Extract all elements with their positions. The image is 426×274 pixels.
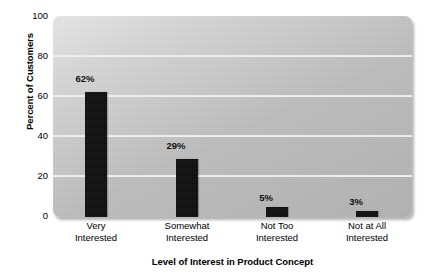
y-tick-label-80: 80 — [22, 51, 48, 61]
bar-chart-figure: Percent of Customers 100 80 60 40 20 0 6… — [0, 0, 426, 274]
category-label-line2: Interested — [137, 232, 237, 244]
category-label-line2: Interested — [317, 232, 417, 244]
y-tick-label-40: 40 — [22, 131, 48, 141]
x-axis-title: Level of Interest in Product Concept — [53, 256, 412, 267]
category-label-line2: Interested — [46, 232, 146, 244]
gridline-80 — [53, 55, 412, 57]
y-axis-tick-labels: 100 80 60 40 20 0 — [18, 0, 48, 274]
category-label-line1: Not Too — [261, 220, 294, 231]
bar-very-interested — [85, 92, 107, 217]
bar-value-very-interested: 62% — [62, 74, 108, 84]
y-tick-label-100: 100 — [22, 11, 48, 21]
bar-not-at-all-interested — [356, 211, 378, 217]
bar-value-somewhat-interested: 29% — [153, 141, 199, 151]
category-label-somewhat-interested: Somewhat Interested — [137, 220, 237, 243]
category-label-not-too-interested: Not Too Interested — [227, 220, 327, 243]
category-label-line1: Not at All — [348, 220, 386, 231]
y-tick-label-60: 60 — [22, 91, 48, 101]
bar-value-not-too-interested: 5% — [243, 193, 289, 203]
y-tick-label-20: 20 — [22, 171, 48, 181]
category-label-not-at-all-interested: Not at All Interested — [317, 220, 417, 243]
category-label-very-interested: Very Interested — [46, 220, 146, 243]
category-label-line2: Interested — [227, 232, 327, 244]
bar-value-not-at-all-interested: 3% — [333, 197, 379, 207]
x-axis-category-labels: Very Interested Somewhat Interested Not … — [53, 220, 412, 256]
category-label-line1: Very — [86, 220, 105, 231]
y-tick-label-0: 0 — [22, 211, 48, 221]
category-label-line1: Somewhat — [165, 220, 210, 231]
plot-area — [53, 16, 412, 217]
bar-somewhat-interested — [176, 159, 198, 217]
bar-not-too-interested — [266, 207, 288, 217]
